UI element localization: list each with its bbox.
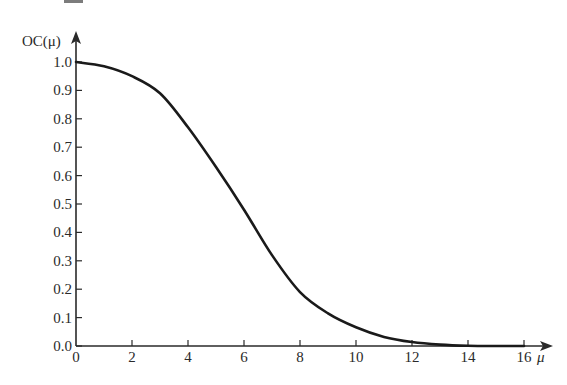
x-tick-label: 0 [72,349,80,365]
x-tick-label: 16 [517,349,533,365]
y-tick-label: 0.5 [53,196,72,212]
y-axis-ticks: 0.00.10.20.30.40.50.60.70.80.91.0 [53,54,82,354]
y-tick-label: 0.9 [53,82,72,98]
y-tick-label: 0.3 [53,253,72,269]
x-tick-label: 14 [461,349,477,365]
x-tick-label: 8 [296,349,304,365]
x-axis-ticks: 0246810121416 [72,340,532,365]
y-tick-label: 0.4 [53,224,72,240]
y-tick-label: 1.0 [53,54,72,70]
y-tick-label: 0.0 [53,338,72,354]
chart-canvas: 0.00.10.20.30.40.50.60.70.80.91.0 024681… [0,0,567,385]
x-tick-label: 10 [349,349,364,365]
y-tick-label: 0.7 [53,139,72,155]
y-tick-label: 0.1 [53,310,72,326]
x-axis-title: μ [536,349,545,365]
x-tick-label: 4 [184,349,192,365]
x-tick-label: 6 [240,349,248,365]
y-axis-title: OC(μ) [22,33,61,50]
oc-curve-line [76,62,524,346]
y-tick-label: 0.6 [53,168,72,184]
clipped-top-label [64,0,83,3]
y-tick-label: 0.2 [53,281,72,297]
x-tick-label: 12 [405,349,420,365]
oc-curve-chart: 0.00.10.20.30.40.50.60.70.80.91.0 024681… [0,0,567,385]
y-tick-label: 0.8 [53,111,72,127]
x-tick-label: 2 [128,349,136,365]
